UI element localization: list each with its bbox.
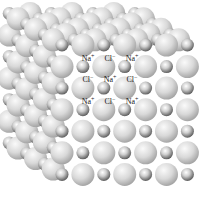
chloride-ion-sphere	[176, 141, 199, 164]
chloride-ion-sphere	[155, 77, 178, 100]
sodium-ion-sphere	[56, 82, 69, 95]
sodium-ion-sphere	[181, 82, 194, 95]
chloride-ion-label: Cl−	[127, 74, 139, 84]
sodium-ion-sphere	[160, 60, 173, 73]
chloride-ion-sphere	[71, 163, 94, 186]
sodium-ion-sphere	[56, 168, 69, 181]
sodium-ion-sphere	[139, 168, 152, 181]
sodium-ion-sphere	[160, 103, 173, 116]
sodium-ion-label: Na+	[82, 96, 95, 106]
sodium-ion-sphere	[139, 39, 152, 52]
chloride-ion-sphere	[134, 141, 157, 164]
ion-labels: Na+Cl−Na+Cl−Na+Cl−Na+Cl−Na+	[82, 53, 139, 106]
chloride-ion-sphere	[113, 163, 136, 186]
chloride-ion-label: Cl−	[105, 53, 117, 63]
sodium-ion-sphere	[97, 125, 110, 138]
chloride-ion-sphere	[92, 141, 115, 164]
sodium-ion-label: Na+	[82, 53, 95, 63]
chloride-ion-sphere	[51, 98, 74, 121]
chloride-ion-sphere	[51, 55, 74, 78]
sodium-ion-sphere	[76, 146, 89, 159]
chloride-ion-sphere	[176, 55, 199, 78]
chloride-ion-label: Cl−	[105, 96, 117, 106]
nacl-lattice-diagram: Na+Cl−Na+Cl−Na+Cl−Na+Cl−Na+	[0, 0, 222, 204]
chloride-ion-sphere	[155, 163, 178, 186]
chloride-ion-sphere	[176, 98, 199, 121]
sodium-ion-sphere	[97, 168, 110, 181]
chloride-ion-sphere	[51, 141, 74, 164]
sodium-ion-sphere	[181, 125, 194, 138]
sodium-ion-sphere	[181, 39, 194, 52]
chloride-ion-sphere	[71, 120, 94, 143]
sodium-ion-sphere	[139, 82, 152, 95]
sodium-ion-sphere	[181, 168, 194, 181]
sodium-ion-sphere	[97, 39, 110, 52]
sodium-ion-sphere	[56, 125, 69, 138]
sodium-ion-sphere	[56, 39, 69, 52]
chloride-ion-sphere	[155, 120, 178, 143]
sodium-ion-sphere	[118, 146, 131, 159]
chloride-ion-sphere	[113, 120, 136, 143]
chloride-ion-sphere	[155, 34, 178, 57]
ion-spheres	[0, 2, 199, 186]
sodium-ion-sphere	[160, 146, 173, 159]
sodium-ion-sphere	[139, 125, 152, 138]
